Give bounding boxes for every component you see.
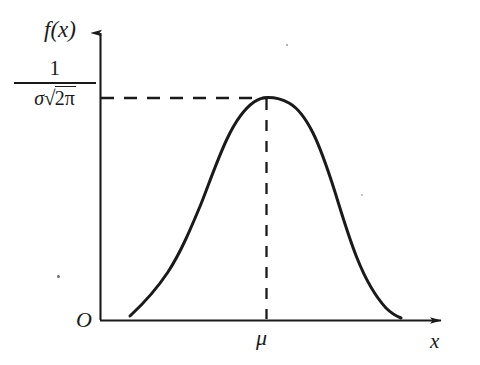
figure-canvas: [0, 0, 480, 365]
x-axis-label: x: [430, 331, 439, 352]
peak-value-numerator: 1: [14, 57, 96, 79]
peak-value-label: 1 σ√2π: [14, 57, 96, 110]
scan-speck: [286, 44, 288, 46]
scan-speck: [361, 194, 363, 196]
radicand: 2π: [55, 86, 76, 109]
sigma-symbol: σ: [34, 87, 44, 109]
scan-speck: [57, 275, 60, 278]
fraction-bar: [14, 82, 96, 84]
origin-label: O: [76, 309, 92, 331]
normal-distribution-figure: f(x) 1 σ√2π O μ x: [0, 0, 480, 365]
peak-value-denominator: σ√2π: [14, 86, 96, 110]
y-axis-label: f(x): [44, 18, 76, 41]
radical-sign-icon: √: [44, 86, 56, 110]
mean-tick-label: μ: [256, 327, 267, 349]
